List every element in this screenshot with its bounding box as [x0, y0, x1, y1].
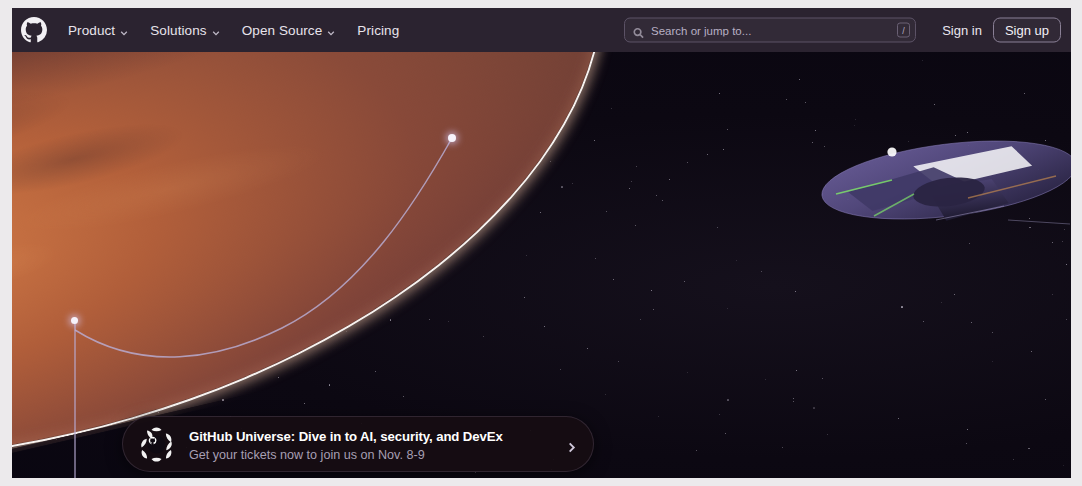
- search-container: Search or jump to... /: [624, 18, 916, 43]
- universe-promo-banner[interactable]: GitHub Universe: Dive in to AI, security…: [122, 416, 594, 472]
- search-shortcut-key: /: [897, 23, 910, 38]
- nav-item-label: Product: [68, 23, 115, 38]
- auth-actions: Sign in Sign up: [942, 18, 1061, 43]
- github-universe-icon: [138, 426, 175, 463]
- graph-node-bottom: [71, 317, 78, 324]
- nav-item-pricing[interactable]: Pricing: [357, 23, 399, 38]
- nav-item-label: Pricing: [357, 23, 399, 38]
- sign-in-link[interactable]: Sign in: [942, 23, 982, 38]
- chevron-down-icon: [120, 25, 128, 33]
- nav-item-label: Open Source: [242, 23, 323, 38]
- search-icon: [633, 25, 644, 36]
- site-header: Product Solutions Open Source Pricing: [12, 8, 1071, 52]
- banner-title: GitHub Universe: Dive in to AI, security…: [189, 429, 503, 444]
- sign-up-button[interactable]: Sign up: [993, 18, 1061, 43]
- banner-text: GitHub Universe: Dive in to AI, security…: [189, 427, 560, 462]
- nav-item-open-source[interactable]: Open Source: [242, 23, 336, 38]
- hero-section: GitHub Universe: Dive in to AI, security…: [12, 52, 1071, 478]
- nav-item-product[interactable]: Product: [68, 23, 128, 38]
- nav-item-solutions[interactable]: Solutions: [150, 23, 219, 38]
- spacecraft-illustration: [818, 124, 1071, 252]
- chevron-down-icon: [327, 25, 335, 33]
- graph-node-top: [448, 134, 456, 142]
- banner-subtitle: Get your tickets now to join us on Nov. …: [189, 448, 560, 462]
- chevron-right-icon: [566, 439, 577, 450]
- chevron-down-icon: [212, 25, 220, 33]
- github-mark-icon[interactable]: [18, 14, 50, 46]
- github-homepage-screen: Product Solutions Open Source Pricing: [12, 8, 1071, 478]
- nav-item-label: Solutions: [150, 23, 206, 38]
- search-placeholder: Search or jump to...: [651, 24, 897, 36]
- photographed-page: Product Solutions Open Source Pricing: [0, 0, 1082, 486]
- primary-navigation: Product Solutions Open Source Pricing: [68, 23, 399, 38]
- search-input[interactable]: Search or jump to... /: [624, 18, 916, 43]
